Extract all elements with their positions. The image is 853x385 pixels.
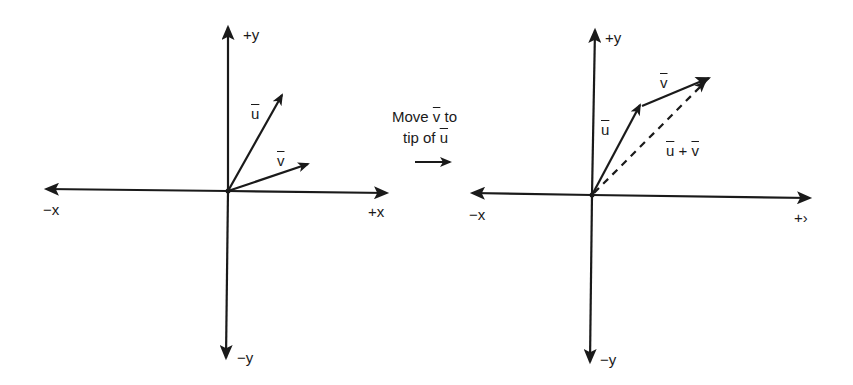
right-pos-y-axis xyxy=(592,30,595,195)
right-neg-x-axis xyxy=(472,193,592,195)
right-neg-x-label: −x xyxy=(469,207,485,222)
left-pos-x-axis xyxy=(228,191,387,193)
right-vector-v-label: v xyxy=(660,75,668,90)
right-vector-v xyxy=(642,78,709,106)
transition-line-2-vector: u xyxy=(440,129,448,146)
right-vector-u-label: u xyxy=(601,122,609,137)
left-neg-x-label: −x xyxy=(43,202,59,217)
right-neg-y-label: −y xyxy=(600,352,616,367)
transition-line-2: tip of u xyxy=(403,130,448,145)
left-vector-v-label: v xyxy=(277,153,285,168)
transition-line-1-suffix: to xyxy=(440,108,457,125)
left-neg-y-axis xyxy=(226,191,228,358)
transition-line-1-prefix: Move xyxy=(392,108,433,125)
right-sum-label: u + v xyxy=(666,143,699,158)
transition-line-1: Move v to xyxy=(392,109,457,124)
right-origin-dot xyxy=(590,193,595,198)
sum-label-plus: + xyxy=(674,142,691,159)
right-pos-x-label: +› xyxy=(794,210,808,225)
left-coordinate-plane xyxy=(46,27,387,358)
right-vector-sum-dashed xyxy=(594,82,705,193)
left-neg-y-label: −y xyxy=(237,350,253,365)
right-pos-x-axis xyxy=(592,195,810,198)
left-pos-y-label: +y xyxy=(243,27,259,42)
vector-addition-diagram xyxy=(0,0,853,385)
right-neg-y-axis xyxy=(590,195,592,362)
left-pos-x-label: +x xyxy=(368,204,384,219)
right-vector-u xyxy=(592,105,640,195)
left-origin-dot xyxy=(226,189,231,194)
left-vector-u-label: u xyxy=(251,106,259,121)
sum-label-v: v xyxy=(691,142,699,159)
left-neg-x-axis xyxy=(46,189,228,191)
transition-line-2-prefix: tip of xyxy=(403,129,440,146)
right-pos-y-label: +y xyxy=(605,30,621,45)
right-coordinate-plane xyxy=(472,30,810,362)
